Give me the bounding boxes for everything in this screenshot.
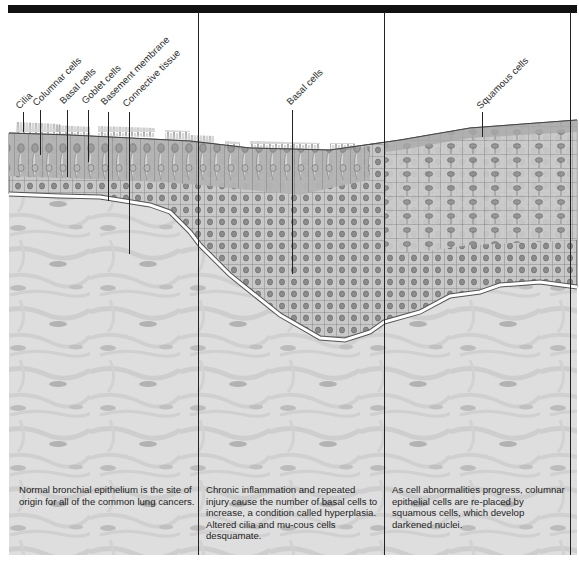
panel-divider bbox=[198, 12, 199, 555]
panel-divider bbox=[570, 12, 571, 555]
leader-line bbox=[67, 110, 68, 177]
bronchial-epithelium-figure: Cilia Columnar cells Basal cells Goblet … bbox=[0, 0, 579, 565]
top-bar bbox=[8, 5, 577, 13]
caption-normal: Normal bronchial epithelium is the site … bbox=[19, 484, 197, 507]
caption-metaplasia: As cell abnormalities progress, columnar… bbox=[392, 484, 566, 530]
leader-line bbox=[292, 110, 293, 274]
leader-line bbox=[482, 112, 483, 137]
leader-line bbox=[40, 110, 41, 155]
leader-line bbox=[88, 110, 89, 162]
leader-line bbox=[108, 112, 109, 201]
leader-line bbox=[23, 112, 24, 132]
caption-hyperplasia: Chronic inflammation and repeated injury… bbox=[206, 484, 378, 542]
panel-divider bbox=[384, 12, 385, 555]
leader-line bbox=[129, 112, 130, 254]
